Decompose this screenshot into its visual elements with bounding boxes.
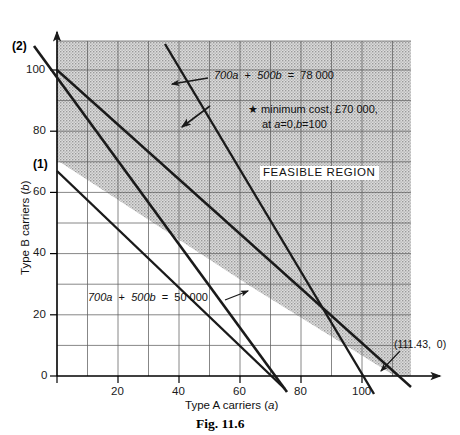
x-tick-20: 20 — [111, 386, 124, 398]
intercept-coordinate-label: (111.43, 0) — [394, 339, 446, 350]
figure-container: 100 80 60 40 20 0 20 40 60 80 100 Type A… — [0, 0, 460, 435]
y-tick-20: 20 — [33, 309, 46, 321]
y-axis-title-suffix: ) — [19, 180, 31, 184]
equation-78000-label: 700a + 500b = 78 000 — [214, 70, 334, 81]
x-axis-title-prefix: Type A carriers ( — [185, 399, 268, 411]
line-tag-1: (1) — [33, 158, 48, 170]
feasible-region-shading — [57, 41, 411, 376]
min-cost-line-2: at a=0,b=100 — [262, 119, 327, 130]
x-tick-40: 40 — [172, 386, 185, 398]
y-axis-title-var: b — [19, 184, 31, 190]
x-tick-100: 100 — [352, 386, 371, 398]
x-axis-title: Type A carriers (a) — [185, 400, 278, 412]
x-tick-60: 60 — [233, 386, 246, 398]
y-tick-0: 0 — [41, 370, 47, 382]
feasible-region-label: FEASIBLE REGION — [260, 166, 379, 180]
y-axis-title-prefix: Type B carriers ( — [19, 191, 31, 275]
line-tag-2: (2) — [12, 40, 27, 52]
y-tick-60: 60 — [33, 186, 46, 198]
y-axis-title: Type B carriers (b) — [20, 180, 32, 275]
y-tick-100: 100 — [26, 64, 45, 76]
linear-programming-plot — [0, 0, 460, 435]
equation-50000-label: 700a + 500b = 50 000 — [88, 292, 208, 303]
x-tick-80: 80 — [294, 386, 307, 398]
figure-caption: Fig. 11.6 — [196, 417, 244, 431]
min-cost-line-1: ★ minimum cost, £70 000, — [248, 104, 378, 115]
x-axis-title-suffix: ) — [275, 399, 279, 411]
y-tick-40: 40 — [33, 247, 46, 259]
y-tick-80: 80 — [33, 125, 46, 137]
